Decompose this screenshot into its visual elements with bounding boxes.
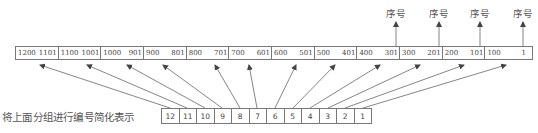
range-high: 1000 xyxy=(103,49,121,57)
arrow-group-2 xyxy=(345,65,464,108)
arrow-group-5 xyxy=(293,65,335,108)
range-high: 200 xyxy=(445,49,458,57)
range-low: 401 xyxy=(342,49,355,57)
arrow-group-8 xyxy=(215,65,240,108)
group-number-cell: 4 xyxy=(302,109,320,123)
range-low: 801 xyxy=(171,49,184,57)
range-low: 1 xyxy=(522,49,526,57)
group-number-cell: 5 xyxy=(285,109,303,123)
range-cell: 400301 xyxy=(357,47,400,59)
range-cell: 200101 xyxy=(443,47,486,59)
range-cell: 11001001 xyxy=(59,47,102,59)
arrow-group-10 xyxy=(127,65,205,108)
range-low: 1001 xyxy=(82,49,100,57)
range-low: 201 xyxy=(427,49,440,57)
arrow-group-1 xyxy=(363,65,506,108)
range-low: 501 xyxy=(299,49,312,57)
range-high: 1200 xyxy=(18,49,36,57)
group-number-cell: 2 xyxy=(337,109,355,123)
range-cell: 800701 xyxy=(187,47,230,59)
range-high: 500 xyxy=(317,49,330,57)
range-low: 1101 xyxy=(39,49,57,57)
range-cell: 900801 xyxy=(144,47,187,59)
arrow-group-6 xyxy=(275,65,296,108)
range-high: 700 xyxy=(231,49,244,57)
group-number-cell: 9 xyxy=(215,109,233,123)
range-high: 900 xyxy=(146,49,159,57)
range-high: 100 xyxy=(487,49,500,57)
range-cell: 500401 xyxy=(315,47,358,59)
group-number-cell: 7 xyxy=(250,109,268,123)
range-cell: 1001 xyxy=(485,47,532,59)
arrow-group-7 xyxy=(249,65,257,108)
seq-label: 序号 xyxy=(470,6,490,20)
arrow-group-3 xyxy=(328,65,420,108)
range-cell: 12001101 xyxy=(16,47,59,59)
range-low: 101 xyxy=(470,49,483,57)
arrow-group-12 xyxy=(40,65,170,108)
range-low: 601 xyxy=(257,49,270,57)
range-high: 300 xyxy=(402,49,415,57)
range-cell: 1000901 xyxy=(101,47,144,59)
range-low: 301 xyxy=(385,49,398,57)
range-high: 1100 xyxy=(61,49,79,57)
seq-label: 序号 xyxy=(429,6,449,20)
range-cell: 600501 xyxy=(272,47,315,59)
range-bar: 12001101 11001001 1000901 900801 800701 … xyxy=(15,46,533,60)
group-number-cell: 11 xyxy=(180,109,198,123)
range-cell: 700601 xyxy=(229,47,272,59)
arrow-group-4 xyxy=(310,65,380,108)
caption: 将上面分组进行编号简化表示 xyxy=(2,109,135,124)
range-cell: 300201 xyxy=(400,47,443,59)
range-high: 400 xyxy=(359,49,372,57)
group-number-cell: 1 xyxy=(355,109,372,123)
seq-label: 序号 xyxy=(386,6,406,20)
range-high: 800 xyxy=(189,49,202,57)
seq-label: 序号 xyxy=(513,6,533,20)
range-high: 600 xyxy=(274,49,287,57)
range-low: 701 xyxy=(214,49,227,57)
range-low: 901 xyxy=(129,49,142,57)
group-number-cell: 3 xyxy=(320,109,338,123)
group-number-cell: 6 xyxy=(267,109,285,123)
group-number-cell: 10 xyxy=(197,109,215,123)
group-number-cell: 8 xyxy=(232,109,250,123)
group-number-bar: 12 11 10 9 8 7 6 5 4 3 2 1 xyxy=(161,108,372,124)
group-number-cell: 12 xyxy=(162,109,180,123)
